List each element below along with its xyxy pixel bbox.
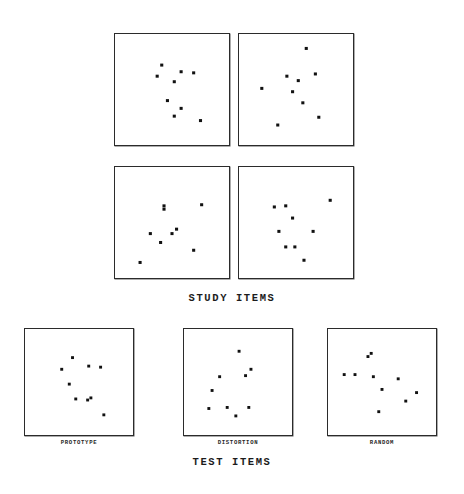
test-panel-label-random: RANDOM: [327, 439, 437, 446]
data-point: [260, 87, 263, 90]
data-point: [160, 64, 163, 67]
data-point: [89, 396, 92, 399]
study-panel-1: [114, 33, 230, 146]
test-panel-prototype: [24, 328, 134, 436]
data-point: [226, 406, 229, 409]
test-items-caption: TEST ITEMS: [0, 456, 464, 468]
data-point: [99, 366, 102, 369]
data-point: [284, 204, 287, 207]
study-panel-4: [238, 166, 354, 279]
data-point: [192, 71, 195, 74]
data-point: [343, 373, 346, 376]
test-panel-random-plot: [328, 329, 436, 435]
data-point: [247, 406, 250, 409]
data-point: [166, 99, 169, 102]
data-point: [277, 230, 280, 233]
study-items-caption: STUDY ITEMS: [0, 292, 464, 304]
data-point: [149, 232, 152, 235]
data-point: [404, 400, 407, 403]
data-point: [156, 75, 159, 78]
data-point: [173, 80, 176, 83]
data-point: [372, 375, 375, 378]
data-point: [285, 75, 288, 78]
data-point: [397, 377, 400, 380]
data-point: [329, 199, 332, 202]
data-point: [314, 72, 317, 75]
test-panel-label-prototype: PROTOTYPE: [24, 439, 134, 446]
data-point: [354, 373, 357, 376]
test-panel-distortion-plot: [184, 329, 292, 435]
study-panel-3: [114, 166, 230, 279]
data-point: [250, 368, 253, 371]
data-point: [68, 383, 71, 386]
figure-root: STUDY ITEMS PROTOTYPE DISTORTION RANDOM …: [0, 0, 464, 494]
data-point: [87, 365, 90, 368]
data-point: [71, 356, 74, 359]
study-panel-2: [238, 33, 354, 146]
data-point: [192, 249, 195, 252]
data-point: [170, 232, 173, 235]
data-point: [162, 208, 165, 211]
data-point: [370, 352, 373, 355]
study-panel-4-plot: [239, 167, 353, 278]
data-point: [301, 101, 304, 104]
data-point: [180, 107, 183, 110]
data-point: [86, 399, 89, 402]
study-panel-1-plot: [115, 34, 229, 145]
data-point: [367, 355, 370, 358]
data-point: [199, 119, 202, 122]
test-panel-label-distortion: DISTORTION: [183, 439, 293, 446]
data-point: [238, 350, 241, 353]
study-panel-3-plot: [115, 167, 229, 278]
data-point: [305, 47, 308, 50]
data-point: [297, 79, 300, 82]
data-point: [312, 230, 315, 233]
data-point: [207, 407, 210, 410]
test-panel-distortion: [183, 328, 293, 436]
test-panel-random: [327, 328, 437, 436]
data-point: [291, 217, 294, 220]
data-point: [234, 414, 237, 417]
data-point: [173, 115, 176, 118]
data-point: [74, 398, 77, 401]
data-point: [211, 389, 214, 392]
data-point: [291, 90, 294, 93]
data-point: [139, 261, 142, 264]
data-point: [293, 245, 296, 248]
data-point: [162, 204, 165, 207]
data-point: [381, 388, 384, 391]
data-point: [159, 241, 162, 244]
data-point: [317, 116, 320, 119]
data-point: [175, 228, 178, 231]
test-panel-prototype-plot: [25, 329, 133, 435]
data-point: [273, 205, 276, 208]
data-point: [102, 413, 105, 416]
data-point: [244, 374, 247, 377]
data-point: [377, 410, 380, 413]
data-point: [415, 391, 418, 394]
data-point: [302, 259, 305, 262]
data-point: [276, 124, 279, 127]
data-point: [60, 368, 63, 371]
data-point: [218, 375, 221, 378]
study-panel-2-plot: [239, 34, 353, 145]
data-point: [200, 203, 203, 206]
data-point: [284, 245, 287, 248]
data-point: [180, 70, 183, 73]
